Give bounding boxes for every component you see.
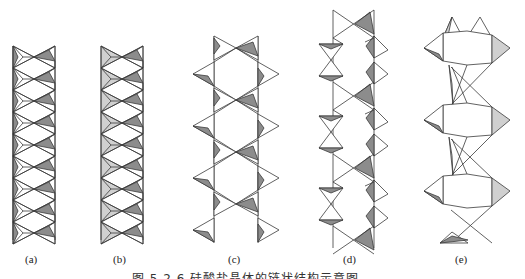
tetrahedron-right	[374, 134, 388, 156]
tetrahedron-right	[374, 206, 388, 228]
tetrahedron-right-face	[366, 108, 374, 130]
panel-a-single-chain	[13, 46, 55, 244]
silicate-chain-figure	[0, 0, 525, 279]
panel-label-a: (a)	[25, 253, 37, 265]
tetrahedron-right-face	[366, 206, 374, 228]
bond-edge	[451, 63, 492, 105]
panel-c-double-chain-hexagonal	[193, 36, 279, 243]
ring-box	[443, 31, 492, 65]
bond-edge	[333, 110, 343, 116]
tetrahedron-right-face	[366, 62, 374, 84]
tetrahedron-bowtie-face	[319, 220, 343, 225]
tetrahedron-right	[374, 36, 388, 58]
tetrahedron-crossing	[355, 12, 374, 34]
bond-edge	[333, 38, 343, 44]
tetrahedron-bowtie-face	[319, 76, 343, 81]
tetrahedron-crossing	[355, 228, 374, 250]
tetrahedron-chain-face	[449, 65, 453, 105]
bond-edge	[333, 182, 343, 188]
tetrahedron-crossing	[355, 84, 374, 106]
panel-e-complex-chain	[424, 17, 510, 243]
bond-edge	[451, 139, 492, 178]
tetrahedron-right	[374, 62, 388, 84]
tetrahedron-bowtie	[319, 132, 343, 148]
panel-label-c: (c)	[228, 253, 240, 265]
bond-edge	[451, 135, 492, 176]
tetrahedron-chain-face	[449, 137, 453, 176]
tetrahedron-right-face	[366, 180, 374, 202]
panel-label-d: (d)	[343, 253, 356, 265]
ring-box	[443, 174, 492, 208]
tetrahedron-bowtie	[319, 60, 343, 76]
panel-label-b: (b)	[113, 253, 126, 265]
tetrahedron-right-spike	[492, 178, 510, 206]
tetrahedron-bowtie	[319, 204, 343, 220]
tetrahedron-right	[374, 108, 388, 130]
bond-edge	[452, 139, 467, 174]
tetrahedron-right	[374, 180, 388, 202]
panel-b-single-chain-shaded	[101, 46, 143, 244]
bond-edge	[452, 67, 467, 103]
ring-box	[443, 103, 492, 137]
tetrahedron-right-face	[366, 36, 374, 58]
tetrahedron-bowtie-face	[319, 148, 343, 153]
panel-label-e: (e)	[455, 253, 467, 265]
tetrahedron-right-spike	[492, 35, 510, 63]
tetrahedron-right-spike	[492, 107, 510, 135]
tetrahedron-right-face	[366, 134, 374, 156]
bond-edge	[451, 67, 492, 107]
tetrahedron-crossing	[355, 156, 374, 178]
figure-caption: 图 5.2.6 硅酸盐晶体的链状结构示意图	[132, 271, 359, 279]
panel-d-chain-with-rings	[319, 10, 388, 254]
